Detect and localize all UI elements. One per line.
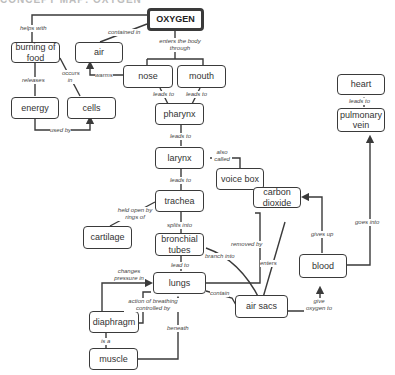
link-contain: contain xyxy=(210,290,229,297)
link-gives-up: gives up xyxy=(311,231,333,238)
node-bronchial-tubes[interactable]: bronchial tubes xyxy=(155,233,204,256)
link-used-by: used by xyxy=(50,127,71,134)
link-enters: enters xyxy=(260,260,277,267)
link-releases: releases xyxy=(22,77,45,84)
link-give-oxygen-to: give oxygen to xyxy=(304,298,334,312)
link-warms: warms xyxy=(95,72,113,79)
link-leads-to-nose: leads to xyxy=(153,91,174,98)
link-beneath: beneath xyxy=(167,325,189,332)
link-leads-to-pharynx: leads to xyxy=(170,133,191,140)
node-blood[interactable]: blood xyxy=(299,254,347,278)
link-branch-into: branch into xyxy=(205,253,235,260)
link-goes-into: goes into xyxy=(355,219,379,226)
link-action-of-breathing: action of breathing controlled by xyxy=(124,298,182,312)
node-mouth[interactable]: mouth xyxy=(177,65,226,88)
link-leads-to-heart: leads to xyxy=(349,98,370,105)
node-air-sacs[interactable]: air sacs xyxy=(235,295,288,318)
node-carbon-dioxide[interactable]: carbon dioxide xyxy=(253,187,301,208)
node-lungs[interactable]: lungs xyxy=(153,272,206,294)
link-also-called: also called xyxy=(212,149,232,163)
link-enters-body-through: enters the body through xyxy=(158,38,202,52)
node-muscle[interactable]: muscle xyxy=(89,348,138,370)
node-energy[interactable]: energy xyxy=(11,97,59,119)
node-diaphragm[interactable]: diaphragm xyxy=(89,311,139,333)
node-trachea[interactable]: trachea xyxy=(155,190,204,212)
node-air[interactable]: air xyxy=(75,42,123,63)
node-cells[interactable]: cells xyxy=(67,97,116,119)
node-pulmonary-vein[interactable]: pulmonary vein xyxy=(337,108,385,132)
link-changes-pressure-in: changes pressure in xyxy=(113,268,145,282)
node-pharynx[interactable]: pharynx xyxy=(155,103,204,125)
link-leads-to-larynx: leads to xyxy=(170,177,191,184)
link-lead-to: lead to xyxy=(171,262,189,269)
link-leads-to-mouth: leads to xyxy=(186,91,207,98)
link-is-a: is a xyxy=(101,338,110,345)
node-oxygen[interactable]: OXYGEN xyxy=(147,8,204,31)
link-contained-in: contained in xyxy=(108,29,140,36)
node-heart[interactable]: heart xyxy=(337,74,385,95)
node-nose[interactable]: nose xyxy=(123,65,173,88)
node-larynx[interactable]: larynx xyxy=(155,147,204,169)
node-burning-of-food[interactable]: burning of food xyxy=(11,42,60,63)
link-held-open-by-rings-of: held open by rings of xyxy=(115,207,155,221)
link-removed-by: removed by xyxy=(231,241,262,248)
link-helps-with: helps with xyxy=(20,25,47,32)
node-cartilage[interactable]: cartilage xyxy=(83,226,132,249)
link-occurs-in: occurs in xyxy=(62,70,78,84)
link-splits-into: splits into xyxy=(167,222,192,229)
